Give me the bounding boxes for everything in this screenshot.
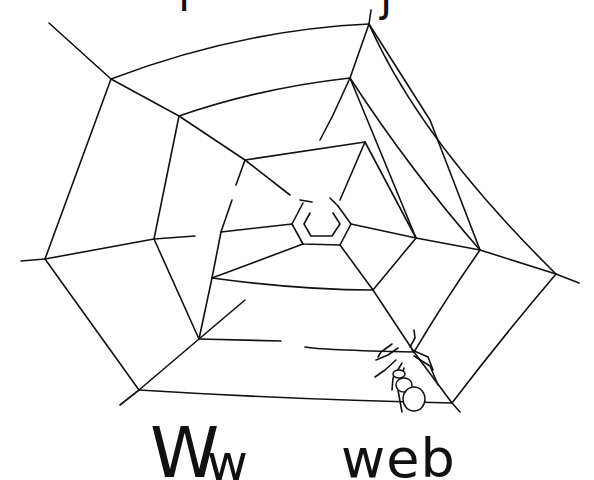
caption-letter-lower: w: [207, 438, 248, 480]
caption-word: web: [341, 432, 456, 480]
web-spirals: [45, 24, 556, 403]
spider-web-illustration: [0, 0, 594, 480]
web-hub: [292, 198, 351, 245]
